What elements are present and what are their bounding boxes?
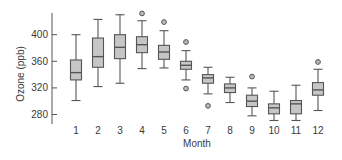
box-month-2 [93, 19, 104, 86]
box-month-9 [247, 74, 258, 116]
x-tick-label: 12 [312, 125, 324, 136]
outlier-point [316, 60, 321, 65]
y-tick-label: 360 [31, 56, 48, 67]
x-tick-label: 9 [249, 125, 255, 136]
outlier-point [162, 20, 167, 25]
x-tick-label: 8 [227, 125, 233, 136]
x-axis-title: Month [183, 138, 211, 149]
box-month-7 [203, 67, 214, 108]
box-month-6 [181, 40, 192, 91]
x-tick-label: 4 [139, 125, 145, 136]
outlier-point [250, 74, 255, 79]
y-tick-label: 400 [31, 29, 48, 40]
box-month-4 [137, 11, 148, 69]
iqr-box [203, 75, 214, 84]
outlier-point [140, 11, 145, 16]
box-month-3 [115, 15, 126, 83]
outlier-point [184, 40, 189, 45]
x-tick-label: 7 [205, 125, 211, 136]
y-tick-label: 280 [31, 109, 48, 120]
box-month-8 [225, 77, 236, 102]
box-month-10 [269, 91, 280, 120]
outlier-point [206, 103, 211, 108]
y-axis: 280320360400 [31, 13, 57, 124]
iqr-box [71, 60, 82, 80]
x-tick-label: 10 [268, 125, 280, 136]
x-axis: 123456789101112 [73, 125, 324, 136]
box-month-1 [71, 35, 82, 101]
y-tick-label: 320 [31, 82, 48, 93]
box-month-5 [159, 20, 170, 68]
x-tick-label: 11 [291, 125, 302, 136]
ozone-boxplot-chart: 280320360400 123456789101112 Ozone (ppb)… [0, 0, 342, 160]
x-tick-label: 5 [161, 125, 167, 136]
outlier-point [184, 86, 189, 91]
iqr-box [269, 104, 280, 114]
x-tick-label: 6 [183, 125, 189, 136]
x-tick-label: 3 [117, 125, 123, 136]
iqr-box [313, 83, 324, 96]
box-series [71, 11, 324, 120]
box-month-11 [291, 85, 302, 120]
iqr-box [291, 101, 302, 114]
x-tick-label: 2 [95, 125, 101, 136]
x-tick-label: 1 [73, 125, 79, 136]
iqr-box [93, 38, 104, 67]
box-month-12 [313, 60, 324, 111]
y-axis-title: Ozone (ppb) [15, 46, 26, 102]
